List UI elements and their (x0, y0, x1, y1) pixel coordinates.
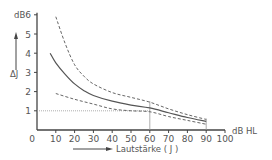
y-tick-label: 3 (25, 68, 31, 78)
y-symbol-label: ΔJ (10, 69, 18, 79)
axes (34, 13, 225, 133)
y-unit-label: dB (14, 10, 25, 20)
x-tick-label: 50 (125, 134, 137, 144)
y-tick-label: 5 (25, 30, 31, 40)
x-tick-label: 90 (200, 134, 212, 144)
x-arrow-icon (73, 147, 113, 151)
x-unit-label: dB HL (232, 126, 257, 136)
x-tick-label: 10 (50, 134, 62, 144)
x-tick-label: 80 (182, 134, 194, 144)
x-tick-label: 30 (88, 134, 100, 144)
series-lower-bound (56, 94, 206, 125)
x-tick-label: 0 (29, 134, 35, 144)
series-group (50, 17, 206, 125)
y-tick-label: 2 (25, 87, 31, 97)
x-tick-label: 70 (163, 134, 175, 144)
x-tick-label: 40 (106, 134, 118, 144)
x-tick-label: 20 (69, 134, 81, 144)
x-axis-title: Lautstärke ( J ) (116, 144, 178, 154)
y-arrow-icon (14, 32, 18, 70)
y-tick-label: 6 (25, 10, 31, 20)
y-tick-label: 1 (25, 106, 31, 116)
series-upper-bound (56, 17, 206, 120)
y-tick-label: 4 (25, 49, 31, 59)
x-tick-label: 60 (144, 134, 156, 144)
chart: 1234560102030405060708090100 dB ΔJ dB HL… (0, 0, 272, 160)
